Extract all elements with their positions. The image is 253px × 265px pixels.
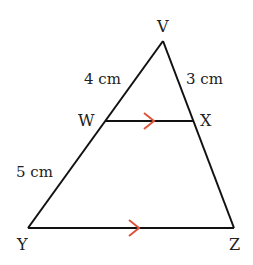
vertex-label-v: V — [156, 17, 169, 36]
vertex-label-z: Z — [229, 235, 240, 254]
vertex-label-w: W — [78, 111, 95, 130]
diagram-canvas: V W X Y Z 4 cm 3 cm 5 cm — [0, 0, 253, 265]
length-label-wy: 5 cm — [16, 163, 53, 181]
length-label-vx: 3 cm — [186, 70, 223, 88]
length-label-vw: 4 cm — [84, 70, 121, 88]
vertex-label-y: Y — [16, 235, 28, 254]
vertex-label-x: X — [200, 111, 212, 130]
